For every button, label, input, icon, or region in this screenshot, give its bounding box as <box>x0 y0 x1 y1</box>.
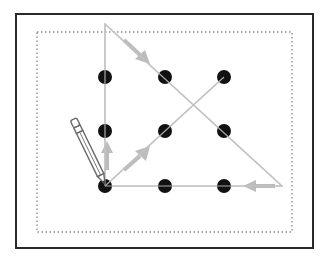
arrow-up-right-icon <box>124 146 150 170</box>
arrow-down-right-icon <box>124 40 150 64</box>
direction-arrows <box>101 40 275 192</box>
dot-r1-c2 <box>158 70 172 84</box>
dot-r2-c3 <box>217 124 231 138</box>
line-overlay <box>105 24 282 186</box>
nine-dots-puzzle-diagram <box>0 0 327 262</box>
arrow-up-icon <box>101 141 113 170</box>
